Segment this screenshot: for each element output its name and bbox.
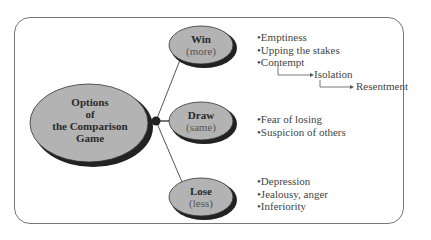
draw-subtitle: (same) xyxy=(170,121,232,133)
list-item: Fear of losing xyxy=(257,113,346,126)
win-subtitle: (more) xyxy=(170,45,232,57)
list-item: Depression xyxy=(257,175,328,188)
center-line: Options xyxy=(40,96,140,108)
win-outcomes: Emptiness Upping the stakes Contempt xyxy=(257,31,340,69)
chain-isolation: Isolation xyxy=(314,68,353,80)
lose-title: Lose xyxy=(170,185,232,197)
lose-outcomes: Depression Jealousy, anger Inferiority xyxy=(257,175,328,213)
center-line: Game xyxy=(40,132,140,144)
center-label: Options of the Comparison Game xyxy=(40,96,140,144)
list-item: Emptiness xyxy=(257,31,340,44)
draw-title: Draw xyxy=(170,109,232,121)
lose-subtitle: (less) xyxy=(170,197,232,209)
list-item: Suspicion of others xyxy=(257,126,346,139)
list-item: Contempt xyxy=(257,56,340,69)
list-item: Inferiority xyxy=(257,200,328,213)
draw-label: Draw (same) xyxy=(170,109,232,133)
arrowhead-resentment xyxy=(350,85,354,89)
win-label: Win (more) xyxy=(170,33,232,57)
center-line: of xyxy=(40,108,140,120)
win-title: Win xyxy=(170,33,232,45)
lose-label: Lose (less) xyxy=(170,185,232,209)
junction-dot xyxy=(152,117,161,126)
list-item: Upping the stakes xyxy=(257,44,340,57)
list-item: Jealousy, anger xyxy=(257,188,328,201)
draw-outcomes: Fear of losing Suspicion of others xyxy=(257,113,346,138)
arrow-to-resentment xyxy=(320,80,350,87)
center-line: the Comparison xyxy=(40,120,140,132)
chain-resentment: Resentment xyxy=(356,80,408,92)
